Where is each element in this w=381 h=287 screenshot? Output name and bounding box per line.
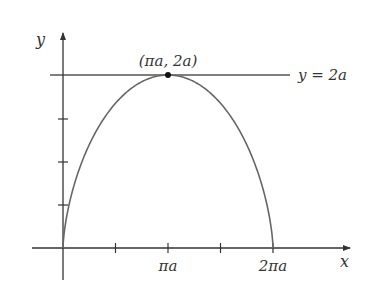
peak-point-label: (πa, 2a) <box>139 52 198 70</box>
y-axis-label: y <box>35 30 46 49</box>
cycloid-curve <box>63 75 273 248</box>
x-axis-label: x <box>340 252 349 271</box>
peak-point <box>165 72 171 78</box>
line-label: y = 2a <box>297 66 347 84</box>
cycloid-diagram: y x (πa, 2a) y = 2a πa 2πa <box>0 0 381 287</box>
x-tick-label-2pi-a: 2πa <box>258 257 287 275</box>
x-tick-label-pi-a: πa <box>158 257 178 275</box>
